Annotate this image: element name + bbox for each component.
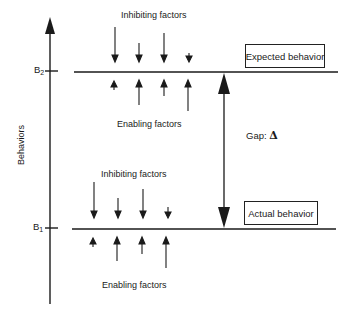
behaviors-axis-label: Behaviors — [16, 120, 26, 170]
b2-subscript: 2 — [40, 69, 44, 76]
gap-label: Gap: Δ — [246, 129, 278, 142]
lower-inhibiting-label: Inhibiting factors — [101, 169, 167, 179]
gap-arrow — [218, 73, 230, 228]
upper-enabling-label: Enabling factors — [117, 119, 182, 129]
b1-label: B1 — [33, 221, 43, 233]
behaviors-axis — [45, 17, 58, 304]
lower-enabling-arrows — [90, 237, 169, 268]
upper-enabling-arrows — [111, 80, 191, 111]
gap-text: Gap: — [246, 130, 267, 141]
axis-arrowhead-icon — [45, 17, 55, 34]
upper-inhibiting-label: Inhibiting factors — [121, 10, 187, 20]
b1-subscript: 1 — [39, 226, 43, 233]
lower-inhibiting-arrows — [91, 182, 171, 218]
lower-enabling-label: Enabling factors — [102, 280, 167, 290]
expected-behavior-box: Expected behavior — [245, 44, 325, 68]
gap-arrowhead-up-icon — [218, 73, 230, 94]
b2-label: B2 — [34, 64, 44, 76]
actual-behavior-box: Actual behavior — [244, 201, 318, 225]
gap-arrowhead-down-icon — [218, 207, 230, 228]
delta-symbol: Δ — [269, 129, 278, 142]
upper-inhibiting-arrows — [112, 27, 192, 62]
